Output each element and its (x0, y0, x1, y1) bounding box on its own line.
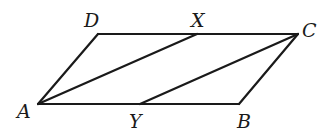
label-c: C (302, 19, 317, 41)
parallelogram-diagram: D X C A Y B (0, 0, 331, 136)
label-x: X (189, 9, 206, 31)
segment-da (38, 34, 98, 104)
segment-bc (239, 34, 298, 104)
segment-yc (140, 34, 298, 104)
label-b: B (236, 110, 251, 132)
label-d: D (83, 9, 99, 31)
segment-ax (38, 34, 197, 104)
label-a: A (15, 100, 31, 122)
label-y: Y (129, 110, 144, 132)
